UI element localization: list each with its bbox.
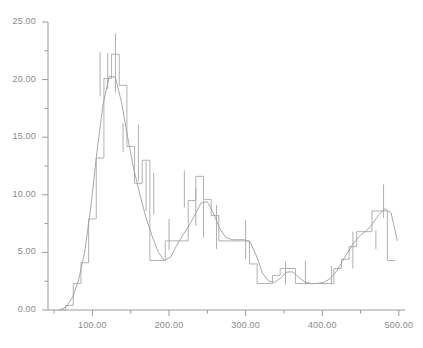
y-tick-label: 0.00 bbox=[0, 304, 36, 314]
x-tick-label: 400.00 bbox=[292, 320, 352, 330]
error-bars bbox=[100, 34, 383, 285]
chart-container: 0.005.0010.0015.0020.0025.00 100.00200.0… bbox=[0, 0, 423, 348]
y-tick-label: 5.00 bbox=[0, 246, 36, 256]
y-tick-label: 10.00 bbox=[0, 189, 36, 199]
y-tick-label: 15.00 bbox=[0, 131, 36, 141]
smooth-fit-line bbox=[60, 76, 397, 310]
smooth-line-path bbox=[60, 76, 397, 310]
x-tick-label: 500.00 bbox=[369, 320, 423, 330]
x-tick-label: 100.00 bbox=[62, 320, 122, 330]
y-tick-label: 20.00 bbox=[0, 74, 36, 84]
x-tick-label: 300.00 bbox=[216, 320, 276, 330]
chart-plot-area bbox=[0, 0, 423, 348]
x-tick-label: 200.00 bbox=[139, 320, 199, 330]
step-line-path bbox=[58, 54, 395, 310]
step-histogram-line bbox=[58, 54, 395, 310]
y-tick-label: 25.00 bbox=[0, 16, 36, 26]
